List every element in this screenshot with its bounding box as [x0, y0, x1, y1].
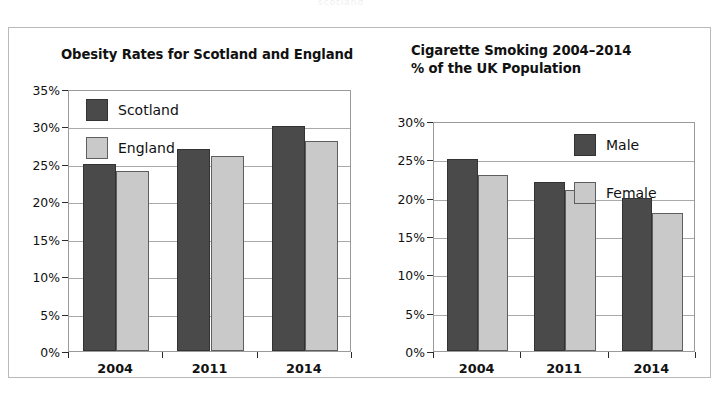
- y-axis-tick-mark: [427, 199, 433, 200]
- page-top-strip: scotland: [0, 0, 719, 16]
- y-axis-tick-mark: [62, 240, 68, 241]
- legend-swatch-icon: [574, 182, 596, 204]
- legend-swatch-icon: [86, 137, 108, 159]
- x-axis-tick-mark: [351, 352, 352, 358]
- y-axis-tick-label: 25%: [32, 157, 60, 172]
- x-axis-tick-mark: [695, 352, 696, 358]
- bar-female-2011: [565, 190, 596, 351]
- x-axis-tick-label: 2004: [97, 361, 133, 376]
- bar-female-2014: [652, 213, 683, 351]
- gridline: [69, 128, 350, 129]
- bar-scotland-2011: [177, 149, 210, 351]
- x-axis-tick-mark: [257, 352, 258, 358]
- y-axis-tick-label: 30%: [397, 115, 425, 130]
- figure-page: scotland Obesity Rates for Scotland and …: [0, 0, 719, 400]
- chart-title-obesity: Obesity Rates for Scotland and England: [61, 46, 353, 64]
- chart-panel-obesity: Obesity Rates for Scotland and England S…: [9, 28, 361, 377]
- x-axis-tick-mark: [162, 352, 163, 358]
- y-axis-tick-mark: [427, 275, 433, 276]
- bar-scotland-2004: [83, 164, 116, 351]
- legend-item-male[interactable]: Male: [574, 134, 639, 156]
- bar-england-2011: [211, 156, 244, 351]
- x-axis-tick-label: 2014: [634, 361, 670, 376]
- y-axis-tick-mark: [62, 315, 68, 316]
- y-axis-tick-label: 10%: [397, 268, 425, 283]
- plot-area-smoking: MaleFemale: [433, 122, 695, 352]
- bar-male-2004: [447, 159, 478, 351]
- y-axis-tick-label: 25%: [397, 153, 425, 168]
- bar-scotland-2014: [272, 126, 305, 351]
- legend-swatch-icon: [574, 134, 596, 156]
- legend-item-female[interactable]: Female: [574, 182, 657, 204]
- y-axis-tick-label: 30%: [32, 120, 60, 135]
- legend-label: Scotland: [118, 102, 179, 118]
- y-axis-tick-mark: [62, 277, 68, 278]
- x-axis-tick-label: 2011: [546, 361, 582, 376]
- y-axis-tick-mark: [427, 160, 433, 161]
- legend-item-england[interactable]: England: [86, 137, 175, 159]
- chart-title-smoking: Cigarette Smoking 2004–2014 % of the UK …: [411, 42, 631, 78]
- y-axis-tick-mark: [62, 90, 68, 91]
- chart-panel-smoking: Cigarette Smoking 2004–2014 % of the UK …: [361, 28, 710, 377]
- y-axis-tick-label: 5%: [405, 306, 425, 321]
- y-axis-tick-label: 15%: [32, 232, 60, 247]
- bar-england-2014: [305, 141, 338, 351]
- bar-male-2011: [534, 182, 565, 351]
- plot-area-obesity: ScotlandEngland: [68, 90, 351, 352]
- x-axis-tick-mark: [68, 352, 69, 358]
- x-axis-tick-label: 2014: [286, 361, 322, 376]
- legend-item-scotland[interactable]: Scotland: [86, 99, 179, 121]
- legend-label: Female: [606, 185, 657, 201]
- bar-male-2014: [622, 198, 653, 351]
- y-axis-tick-label: 20%: [397, 191, 425, 206]
- x-axis-tick-mark: [433, 352, 434, 358]
- y-axis-tick-mark: [427, 314, 433, 315]
- x-axis-tick-mark: [608, 352, 609, 358]
- y-axis-tick-mark: [427, 237, 433, 238]
- legend-swatch-icon: [86, 99, 108, 121]
- ghost-header-text: scotland: [318, 0, 364, 7]
- y-axis-tick-mark: [427, 122, 433, 123]
- y-axis-tick-label: 5%: [40, 307, 60, 322]
- y-axis-tick-mark: [62, 202, 68, 203]
- figure-frame: Obesity Rates for Scotland and England S…: [8, 27, 711, 378]
- bar-female-2004: [478, 175, 509, 351]
- y-axis-tick-label: 20%: [32, 195, 60, 210]
- bar-england-2004: [116, 171, 149, 351]
- y-axis-tick-label: 0%: [405, 345, 425, 360]
- y-axis-tick-label: 10%: [32, 270, 60, 285]
- x-axis-tick-label: 2011: [192, 361, 228, 376]
- y-axis-tick-label: 0%: [40, 345, 60, 360]
- legend-label: Male: [606, 137, 639, 153]
- x-axis-tick-mark: [520, 352, 521, 358]
- y-axis-tick-label: 35%: [32, 83, 60, 98]
- x-axis-tick-label: 2004: [459, 361, 495, 376]
- y-axis-tick-label: 15%: [397, 230, 425, 245]
- y-axis-tick-mark: [62, 127, 68, 128]
- y-axis-tick-mark: [62, 165, 68, 166]
- legend-label: England: [118, 140, 175, 156]
